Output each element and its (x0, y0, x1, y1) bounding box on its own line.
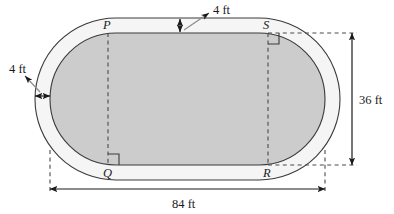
vertex-label-r: R (262, 166, 271, 180)
vertex-label-p: P (102, 18, 111, 32)
dimension-label-track-top: 4 ft (213, 3, 231, 17)
diagram-canvas: P Q R S 4 ft 4 ft 36 ft 84 ft (0, 0, 394, 214)
dimension-label-track-left: 4 ft (9, 62, 27, 76)
vertex-label-q: Q (103, 166, 112, 180)
vertex-label-s: S (263, 18, 270, 32)
track-diagram: P Q R S 4 ft 4 ft 36 ft 84 ft (0, 0, 394, 214)
dimension-label-height: 36 ft (359, 93, 383, 107)
dimension-label-width: 84 ft (172, 197, 196, 211)
inner-field-boundary (50, 33, 325, 165)
